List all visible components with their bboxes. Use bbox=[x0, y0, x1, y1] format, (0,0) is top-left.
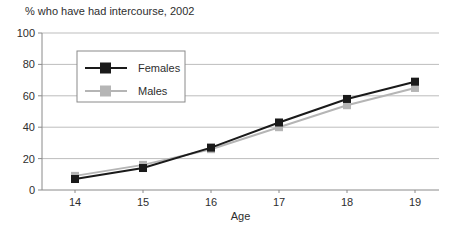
chart-container: % who have had intercourse, 2002 0204060… bbox=[0, 0, 464, 234]
x-tick-label: 19 bbox=[409, 196, 421, 208]
y-tick-label: 80 bbox=[23, 58, 35, 70]
legend: FemalesMales bbox=[77, 51, 185, 102]
line-chart: 020406080100141516171819AgeFemalesMales bbox=[0, 0, 464, 234]
data-point-marker bbox=[139, 164, 147, 172]
x-tick-label: 15 bbox=[137, 196, 149, 208]
x-axis-title: Age bbox=[231, 210, 251, 222]
legend-label: Females bbox=[138, 62, 181, 74]
data-point-marker bbox=[275, 118, 283, 126]
y-tick-label: 60 bbox=[23, 90, 35, 102]
data-point-marker bbox=[411, 78, 419, 86]
legend-box bbox=[77, 51, 185, 102]
legend-label: Males bbox=[138, 85, 168, 97]
data-point-marker bbox=[343, 95, 351, 103]
x-tick-label: 14 bbox=[69, 196, 81, 208]
x-tick-label: 17 bbox=[273, 196, 285, 208]
x-tick-label: 16 bbox=[205, 196, 217, 208]
legend-marker bbox=[100, 86, 111, 97]
y-tick-label: 100 bbox=[17, 27, 35, 39]
x-tick-label: 18 bbox=[341, 196, 353, 208]
legend-marker bbox=[100, 63, 111, 74]
data-point-marker bbox=[207, 144, 215, 152]
y-tick-label: 0 bbox=[29, 184, 35, 196]
data-point-marker bbox=[71, 175, 79, 183]
y-tick-label: 20 bbox=[23, 153, 35, 165]
y-tick-label: 40 bbox=[23, 121, 35, 133]
